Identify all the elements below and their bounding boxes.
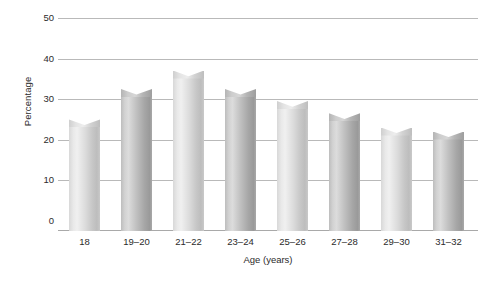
y-tick-50: 50 — [28, 13, 54, 23]
bar-18[interactable] — [69, 119, 100, 231]
bar-top-cap — [225, 89, 256, 97]
x-tick-18: 18 — [57, 236, 113, 248]
x-tick-29-30: 29–30 — [369, 236, 425, 248]
bar-body — [433, 139, 464, 232]
bar-body — [225, 96, 256, 231]
x-tick-27-28: 27–28 — [317, 236, 373, 248]
bar-top-cap — [121, 89, 152, 97]
x-axis-title: Age (years) — [58, 254, 478, 265]
x-tick-25-26: 25–26 — [265, 236, 321, 248]
y-tick-30: 30 — [28, 94, 54, 104]
bar-top-cap — [277, 101, 308, 109]
bar-top-cap — [381, 128, 412, 136]
x-tick-19-20: 19–20 — [109, 236, 165, 248]
bar-body — [69, 126, 100, 231]
bars-layer — [58, 18, 478, 231]
y-tick-10: 10 — [28, 175, 54, 185]
bar-21-22[interactable] — [173, 71, 204, 231]
bar-27-28[interactable] — [329, 113, 360, 231]
y-axis-tick-labels: 50 40 30 20 10 0 — [20, 18, 54, 231]
x-tick-23-24: 23–24 — [213, 236, 269, 248]
x-tick-31-32: 31–32 — [421, 236, 477, 248]
y-tick-0: 0 — [28, 216, 54, 226]
x-axis-tick-labels: 18 19–20 21–22 23–24 25–26 27–28 29–30 3… — [58, 236, 478, 250]
y-tick-20: 20 — [28, 135, 54, 145]
bar-top-cap — [173, 71, 204, 79]
bar-chart: Percentage 50 40 30 20 10 0 — [0, 0, 497, 283]
bar-body — [173, 78, 204, 231]
plot-area — [58, 18, 478, 231]
bar-25-26[interactable] — [277, 101, 308, 231]
bar-body — [277, 108, 308, 231]
bar-31-32[interactable] — [433, 132, 464, 232]
y-tick-40: 40 — [28, 54, 54, 64]
bar-29-30[interactable] — [381, 128, 412, 232]
bar-23-24[interactable] — [225, 89, 256, 231]
bar-top-cap — [433, 132, 464, 140]
bar-top-cap — [329, 113, 360, 121]
bar-body — [381, 135, 412, 232]
bar-top-cap — [69, 119, 100, 127]
bar-body — [329, 120, 360, 231]
bar-19-20[interactable] — [121, 89, 152, 231]
bar-body — [121, 96, 152, 231]
x-tick-21-22: 21–22 — [161, 236, 217, 248]
